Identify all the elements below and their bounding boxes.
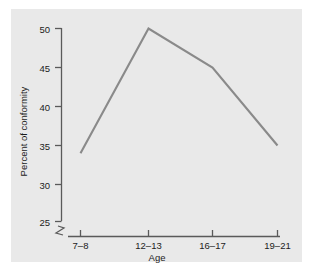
- x-axis-title: Age: [0, 252, 314, 263]
- y-tick-label-45: 45: [30, 62, 50, 73]
- axis-break-icon: [56, 226, 64, 235]
- x-tick-label-1: 7–8: [73, 240, 89, 251]
- x-tick-label-2: 12–13: [135, 240, 161, 251]
- x-tick-label-3: 16–17: [199, 240, 225, 251]
- y-tick-label-25: 25: [30, 216, 50, 227]
- chart-plot-area: [0, 0, 314, 278]
- y-tick-label-35: 35: [30, 140, 50, 151]
- chart-figure: 50 45 40 35 30 25 7–8 12–13 16–17 19–21 …: [0, 0, 314, 278]
- y-tick-label-40: 40: [30, 101, 50, 112]
- y-tick-label-50: 50: [30, 23, 50, 34]
- y-tick-label-30: 30: [30, 179, 50, 190]
- y-axis-title: Percent of conformity: [18, 57, 29, 207]
- x-tick-label-4: 19–21: [264, 240, 290, 251]
- data-line-percent-of-conformity: [81, 29, 278, 154]
